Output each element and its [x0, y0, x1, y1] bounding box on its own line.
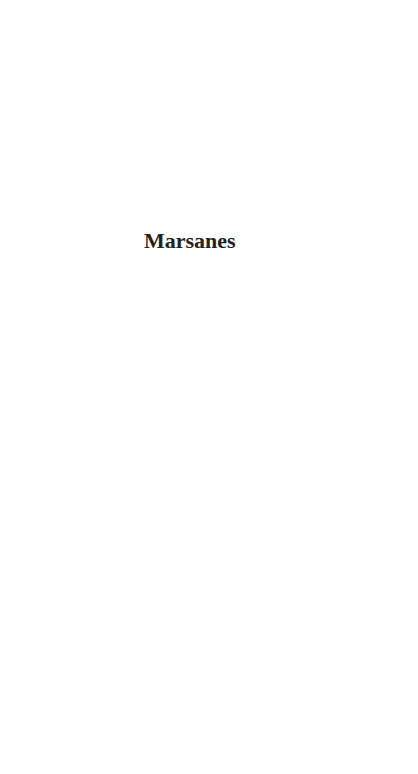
- page-title: Marsanes: [144, 227, 236, 255]
- document-page: Marsanes: [0, 0, 418, 774]
